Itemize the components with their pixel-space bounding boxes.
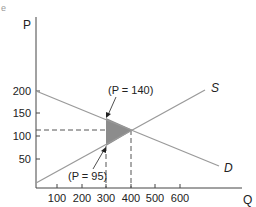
x-axis-title: Q xyxy=(243,193,252,207)
y-tick-50: 50 xyxy=(19,153,31,165)
corner-label: e xyxy=(1,3,6,13)
y-tick-150: 150 xyxy=(13,107,31,119)
x-tick-400: 400 xyxy=(122,192,140,204)
x-ticks: 100 200 300 400 500 600 xyxy=(48,184,189,204)
demand-label: D xyxy=(224,161,233,175)
demand-curve xyxy=(36,91,219,166)
supply-demand-chart: e P Q 200 150 100 50 100 200 300 400 500… xyxy=(0,0,256,207)
x-tick-200: 200 xyxy=(73,192,91,204)
x-tick-600: 600 xyxy=(171,192,189,204)
y-tick-100: 100 xyxy=(13,130,31,142)
arrow-p140 xyxy=(108,97,116,115)
x-tick-500: 500 xyxy=(146,192,164,204)
supply-curve xyxy=(36,90,205,183)
y-axis-title: P xyxy=(23,18,31,32)
annotation-p140: (P = 140) xyxy=(108,84,153,96)
annotation-p95: (P = 95) xyxy=(68,170,107,182)
y-tick-200: 200 xyxy=(13,85,31,97)
x-tick-100: 100 xyxy=(48,192,66,204)
supply-label: S xyxy=(211,81,219,95)
arrowhead-p95-icon xyxy=(101,147,106,153)
x-tick-300: 300 xyxy=(97,192,115,204)
arrow-p95 xyxy=(93,150,104,169)
